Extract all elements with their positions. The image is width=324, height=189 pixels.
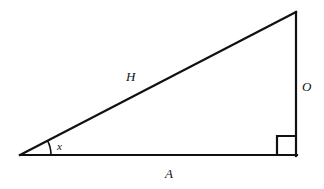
right-angle-marker-icon: [277, 136, 296, 155]
angle-arc-icon: [48, 141, 51, 155]
right-triangle-diagram: H O A x: [0, 0, 324, 189]
angle-label: x: [57, 141, 62, 152]
opposite-side-label: O: [302, 80, 311, 93]
adjacent-side-label: A: [165, 167, 173, 180]
hypotenuse-line: [20, 12, 296, 155]
hypotenuse-label: H: [126, 70, 135, 83]
triangle-graphic: [0, 0, 324, 189]
